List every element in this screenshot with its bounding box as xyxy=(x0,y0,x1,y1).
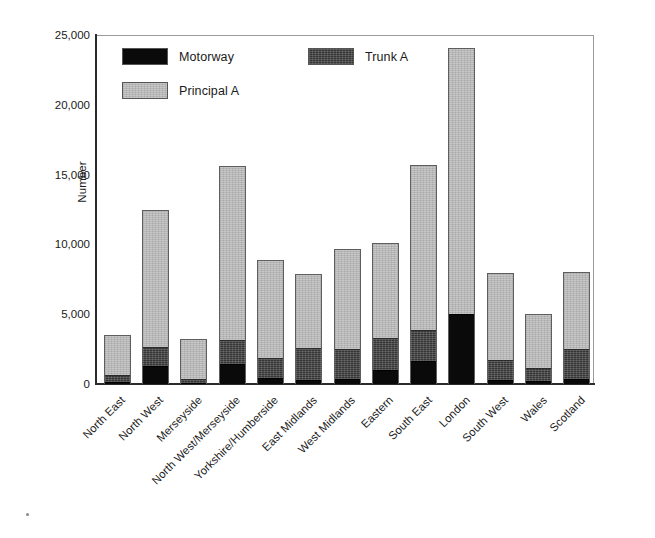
x-axis-tick-labels: North EastNorth WestMerseysideNorth West… xyxy=(0,0,655,538)
x-axis-tick-south-east: South East xyxy=(284,394,434,538)
x-axis-tick-north-east: North East xyxy=(0,394,127,538)
stacked-bar-chart: Number 25,00020,00015,00010,0005,0000 Mo… xyxy=(0,0,655,538)
x-axis-tick-london: London xyxy=(322,394,472,538)
x-axis-tick-west-midlands: West Midlands xyxy=(207,394,357,538)
x-axis-tick-yorkshire-humberside: Yorkshire/Humberside xyxy=(131,394,281,538)
x-axis-tick-scotland: Scotland xyxy=(437,394,587,538)
x-axis-tick-south-west: South West xyxy=(361,394,511,538)
x-axis-tick-eastern: Eastern xyxy=(246,394,396,538)
x-axis-tick-east-midlands: East Midlands xyxy=(169,394,319,538)
page-artifact-dot xyxy=(26,513,29,516)
x-axis-tick-wales: Wales xyxy=(399,394,549,538)
x-axis-tick-north-west-merseyside: North West/Merseyside xyxy=(92,394,242,538)
x-axis-tick-north-west: North West xyxy=(16,394,166,538)
x-axis-tick-merseyside: Merseyside xyxy=(54,394,204,538)
